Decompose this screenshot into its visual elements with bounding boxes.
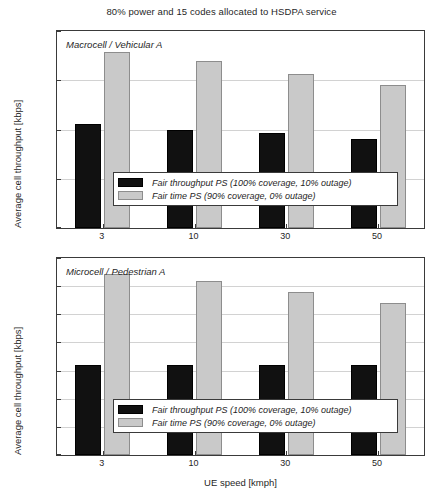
x-tick-mark <box>286 224 287 228</box>
y-tick-mark <box>57 258 61 259</box>
y-axis-label-bottom: Average cell throughput [kbps] <box>12 327 23 455</box>
legend-swatch-fair-throughput <box>118 178 143 187</box>
x-tick-mark <box>195 224 196 228</box>
legend-swatch-fair-time <box>118 418 143 427</box>
figure: 80% power and 15 codes allocated to HSDP… <box>0 0 443 499</box>
x-tick-mark <box>195 451 196 455</box>
plot-area-microcell: Fair throughput PS (100% coverage, 10% o… <box>56 257 425 456</box>
y-tick-mark <box>57 286 61 287</box>
bar-fair-time-50 <box>380 85 406 228</box>
x-tick-mark <box>103 224 104 228</box>
x-tick-label: 30 <box>280 231 290 241</box>
y-tick-mark <box>57 80 61 81</box>
x-axis-label: UE speed [kmph] <box>56 477 425 488</box>
legend-item: Fair time PS (90% coverage, 0% outage) <box>118 416 391 429</box>
x-tick-label: 3 <box>99 231 104 241</box>
x-tick-label: 50 <box>372 458 382 468</box>
x-tick-mark <box>103 451 104 455</box>
legend-item: Fair time PS (90% coverage, 0% outage) <box>118 189 391 202</box>
y-tick-mark <box>57 399 61 400</box>
legend-label: Fair time PS (90% coverage, 0% outage) <box>152 191 316 201</box>
panel-tag-microcell: Microcell / Pedestrian A <box>66 266 165 277</box>
y-tick-mark <box>57 454 61 455</box>
legend-label: Fair throughput PS (100% coverage, 10% o… <box>152 178 352 188</box>
bar-fair-throughput-3 <box>75 124 101 228</box>
figure-title: 80% power and 15 codes allocated to HSDP… <box>0 6 443 17</box>
legend: Fair throughput PS (100% coverage, 10% o… <box>113 172 398 206</box>
x-tick-mark <box>286 451 287 455</box>
x-tick-label: 3 <box>99 458 104 468</box>
legend-label: Fair time PS (90% coverage, 0% outage) <box>152 418 316 428</box>
y-tick-mark <box>57 371 61 372</box>
y-tick-mark <box>57 31 61 32</box>
y-axis-label-top: Average cell throughput [kbps] <box>12 100 23 228</box>
y-tick-mark <box>57 227 61 228</box>
x-tick-label: 50 <box>372 231 382 241</box>
y-tick-mark <box>57 427 61 428</box>
plot-area-macrocell: Fair throughput PS (100% coverage, 10% o… <box>56 30 425 229</box>
y-tick-mark <box>57 314 61 315</box>
x-tick-label: 10 <box>189 231 199 241</box>
x-tick-mark <box>378 451 379 455</box>
legend-item: Fair throughput PS (100% coverage, 10% o… <box>118 403 391 416</box>
y-tick-mark <box>57 130 61 131</box>
bar-fair-throughput-3 <box>75 365 101 455</box>
y-tick-mark <box>57 342 61 343</box>
x-tick-label: 30 <box>280 458 290 468</box>
y-tick-mark <box>57 179 61 180</box>
legend-label: Fair throughput PS (100% coverage, 10% o… <box>152 405 352 415</box>
legend-swatch-fair-time <box>118 191 143 200</box>
x-tick-mark <box>378 224 379 228</box>
legend-item: Fair throughput PS (100% coverage, 10% o… <box>118 176 391 189</box>
panel-tag-macrocell: Macrocell / Vehicular A <box>66 39 162 50</box>
legend: Fair throughput PS (100% coverage, 10% o… <box>113 399 398 433</box>
legend-swatch-fair-throughput <box>118 405 143 414</box>
x-tick-label: 10 <box>189 458 199 468</box>
